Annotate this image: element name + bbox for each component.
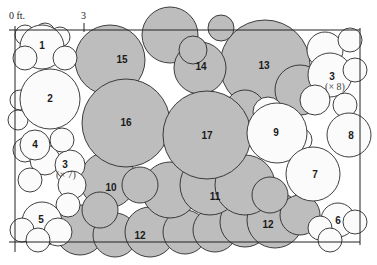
- scale-origin-label: 0 ft.: [9, 10, 25, 21]
- plant-label-5: 5: [38, 214, 44, 225]
- plant-count-3b: (× 7): [56, 169, 76, 181]
- plant-label-15: 15: [116, 54, 128, 65]
- plant-label-13: 13: [258, 60, 270, 71]
- plant-label-8: 8: [348, 130, 354, 141]
- plant-label-12a: 12: [134, 230, 146, 241]
- plant-label-3a: 3: [329, 71, 335, 82]
- plant-count-3a: (× 8): [325, 81, 345, 93]
- plant-label-6: 6: [335, 215, 341, 226]
- plant-label-17: 17: [201, 130, 213, 141]
- plant-label-11: 11: [210, 191, 221, 202]
- plant-label-14: 14: [195, 61, 207, 72]
- plant-label-12b: 12: [262, 219, 274, 230]
- plant-label-2: 2: [47, 93, 53, 104]
- plant-label-3b: 3: [62, 159, 68, 170]
- scale-tick-label: 3: [81, 10, 86, 21]
- plant-label-7: 7: [312, 169, 318, 180]
- plant-label-4: 4: [32, 139, 38, 150]
- plant-label-1: 1: [39, 40, 45, 51]
- plant-label-16: 16: [120, 117, 132, 128]
- planting-plan-diagram: 0 ft. 3: [0, 0, 377, 265]
- plant-label-9: 9: [273, 127, 279, 138]
- plant-label-10: 10: [105, 182, 117, 193]
